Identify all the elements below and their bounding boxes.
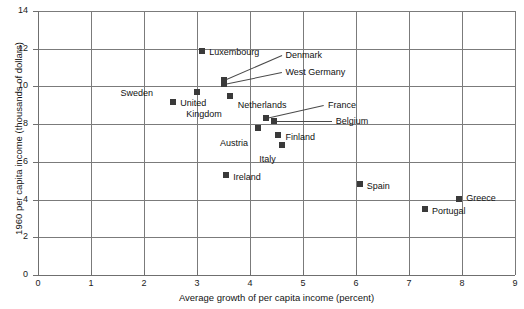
y-axis-tick <box>33 162 38 163</box>
y-axis-tick <box>33 86 38 87</box>
plot-area <box>38 11 515 275</box>
data-point-marker[interactable] <box>221 81 227 87</box>
data-point-label: United <box>180 98 206 108</box>
data-point-label: Finland <box>286 132 316 142</box>
gridline-horizontal <box>38 162 515 163</box>
gridline-vertical <box>91 11 92 275</box>
data-point-label: Italy <box>259 154 276 164</box>
y-axis-tick-label: 14 <box>6 5 28 15</box>
x-axis-tick-label: 9 <box>505 278 524 288</box>
data-point-label: Greece <box>466 193 496 203</box>
y-axis-tick <box>33 200 38 201</box>
y-axis-tick-label: 6 <box>6 156 28 166</box>
y-axis-tick <box>33 275 38 276</box>
x-axis-tick <box>91 270 92 275</box>
data-point-marker[interactable] <box>263 115 269 121</box>
data-point-label: Denmark <box>286 50 323 60</box>
x-axis-tick-label: 7 <box>399 278 419 288</box>
y-axis-tick-label: 0 <box>6 269 28 279</box>
gridline-vertical <box>515 11 516 275</box>
x-axis-tick <box>515 270 516 275</box>
data-point-marker[interactable] <box>456 196 462 202</box>
x-axis-tick <box>144 270 145 275</box>
gridline-vertical <box>409 11 410 275</box>
y-axis-tick <box>33 49 38 50</box>
gridline-horizontal <box>38 49 515 50</box>
data-point-label: Ireland <box>233 172 261 182</box>
data-point-label: Luxembourg <box>209 47 259 57</box>
y-axis-tick-label: 10 <box>6 80 28 90</box>
x-axis-tick-label: 1 <box>81 278 101 288</box>
data-point-marker[interactable] <box>170 99 176 105</box>
data-point-label: Netherlands <box>238 100 287 110</box>
data-point-label: Sweden <box>120 88 153 98</box>
gridline-vertical <box>197 11 198 275</box>
gridline-vertical <box>462 11 463 275</box>
gridline-horizontal <box>38 11 515 12</box>
data-point-label: Belgium <box>336 116 369 126</box>
y-axis-tick-label: 4 <box>6 194 28 204</box>
x-axis-tick <box>356 270 357 275</box>
y-axis-tick <box>33 124 38 125</box>
gridline-vertical <box>356 11 357 275</box>
x-axis-line <box>38 275 515 276</box>
x-axis-tick <box>197 270 198 275</box>
y-axis-tick <box>33 11 38 12</box>
data-point-label: West Germany <box>286 67 346 77</box>
y-axis-tick-label: 8 <box>6 118 28 128</box>
x-axis-tick-label: 3 <box>187 278 207 288</box>
data-point-marker[interactable] <box>199 48 205 54</box>
data-point-label: Spain <box>367 181 390 191</box>
gridline-vertical <box>144 11 145 275</box>
x-axis-tick <box>38 270 39 275</box>
data-point-marker[interactable] <box>227 93 233 99</box>
x-axis-tick-label: 0 <box>28 278 48 288</box>
data-point-label: Austria <box>220 138 248 148</box>
data-point-marker[interactable] <box>223 172 229 178</box>
data-point-marker[interactable] <box>255 125 261 131</box>
y-axis-tick <box>33 237 38 238</box>
data-point-marker[interactable] <box>271 118 277 124</box>
data-point-marker[interactable] <box>357 181 363 187</box>
x-axis-tick-label: 6 <box>346 278 366 288</box>
data-point-marker[interactable] <box>422 206 428 212</box>
gridline-horizontal <box>38 124 515 125</box>
x-axis-tick-label: 5 <box>293 278 313 288</box>
data-point-label-continuation: Kingdom <box>186 109 222 119</box>
x-axis-tick <box>250 270 251 275</box>
y-axis-line <box>38 11 39 275</box>
gridline-horizontal <box>38 200 515 201</box>
data-point-marker[interactable] <box>279 142 285 148</box>
x-axis-tick-label: 2 <box>134 278 154 288</box>
data-point-label: Portugal <box>432 206 466 216</box>
gridline-horizontal <box>38 237 515 238</box>
x-axis-tick-label: 8 <box>452 278 472 288</box>
data-point-label: France <box>328 100 356 110</box>
x-axis-title: Average growth of per capita income (per… <box>38 292 515 303</box>
data-point-marker[interactable] <box>275 132 281 138</box>
label-leader-line <box>274 121 332 122</box>
data-point-marker[interactable] <box>194 89 200 95</box>
x-axis-tick <box>303 270 304 275</box>
scatter-plot-figure: Average growth of per capita income (per… <box>0 0 524 309</box>
y-axis-tick-label: 2 <box>6 231 28 241</box>
x-axis-tick <box>409 270 410 275</box>
y-axis-tick-label: 12 <box>6 43 28 53</box>
x-axis-tick <box>462 270 463 275</box>
x-axis-tick-label: 4 <box>240 278 260 288</box>
gridline-horizontal <box>38 86 515 87</box>
